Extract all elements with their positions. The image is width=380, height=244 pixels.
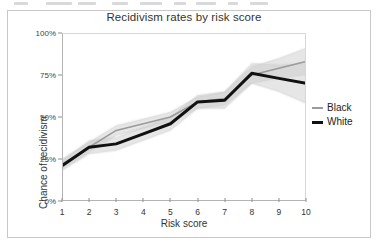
- chart-canvas: [62, 33, 306, 201]
- legend-item-white[interactable]: White: [312, 115, 374, 129]
- x-tick-label-2: 2: [79, 207, 99, 217]
- confidence-band-white: [62, 63, 306, 171]
- legend-item-black[interactable]: Black: [312, 101, 374, 115]
- y-tick-label-100: 100%: [26, 29, 56, 38]
- y-tick-mark-25: [58, 159, 62, 160]
- x-tick-mark-5: [170, 198, 171, 202]
- x-tick-mark-4: [143, 198, 144, 202]
- screenshot-root: Recidivism rates by risk score Chance of…: [0, 0, 380, 244]
- x-tick-label-4: 4: [133, 207, 153, 217]
- legend-swatch-white-icon: [312, 121, 323, 124]
- x-tick-label-10: 10: [296, 207, 316, 217]
- y-tick-mark-50: [58, 117, 62, 118]
- y-tick-label-75: 75%: [26, 71, 56, 80]
- x-tick-label-5: 5: [160, 207, 180, 217]
- x-tick-mark-8: [251, 198, 252, 202]
- y-tick-label-50: 50%: [26, 113, 56, 122]
- x-tick-mark-1: [62, 198, 63, 202]
- cut-off-toolbar-sliver: [0, 0, 380, 8]
- legend-label-white: White: [327, 117, 353, 127]
- x-axis-label: Risk score: [62, 218, 306, 229]
- y-tick-mark-100: [58, 33, 62, 34]
- x-tick-label-9: 9: [269, 207, 289, 217]
- x-tick-mark-6: [197, 198, 198, 202]
- y-tick-label-0: 0%: [26, 197, 56, 206]
- plot-area: [62, 33, 306, 201]
- x-tick-mark-2: [89, 198, 90, 202]
- x-tick-label-3: 3: [106, 207, 126, 217]
- legend-swatch-black-icon: [312, 107, 323, 109]
- x-tick-label-8: 8: [242, 207, 262, 217]
- x-tick-label-7: 7: [215, 207, 235, 217]
- y-tick-label-25: 25%: [26, 155, 56, 164]
- x-tick-label-1: 1: [52, 207, 72, 217]
- x-tick-mark-10: [306, 198, 307, 202]
- y-tick-mark-75: [58, 75, 62, 76]
- x-tick-mark-3: [116, 198, 117, 202]
- chart-legend: Black White: [312, 101, 374, 129]
- x-tick-label-6: 6: [188, 207, 208, 217]
- x-tick-mark-9: [278, 198, 279, 202]
- chart-title: Recidivism rates by risk score: [62, 11, 306, 23]
- x-tick-mark-7: [224, 198, 225, 202]
- legend-label-black: Black: [327, 103, 351, 113]
